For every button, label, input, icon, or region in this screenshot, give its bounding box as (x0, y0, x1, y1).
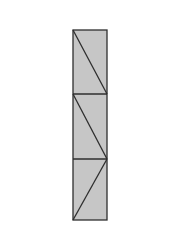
outer-rectangle (73, 30, 107, 220)
diagram-canvas (0, 0, 182, 245)
